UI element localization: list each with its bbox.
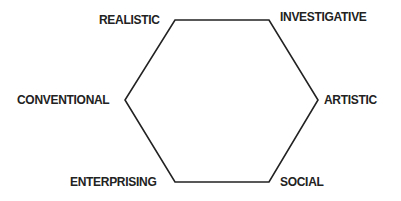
node-conventional: CONVENTIONAL [17,93,109,107]
node-investigative: INVESTIGATIVE [280,10,367,24]
node-realistic: REALISTIC [99,13,160,27]
node-enterprising: ENTERPRISING [70,175,156,189]
node-artistic: ARTISTIC [324,93,377,107]
hexagon-shape [125,20,318,182]
node-social: SOCIAL [280,175,324,189]
